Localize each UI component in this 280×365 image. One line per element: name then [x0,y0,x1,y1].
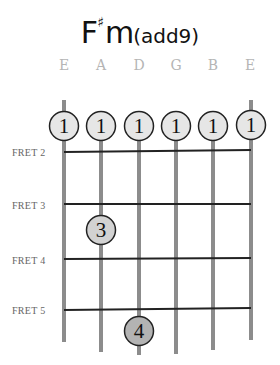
fret-line-4 [64,258,251,259]
fret-line-5 [64,308,251,310]
finger-number: 4 [134,319,145,343]
finger-number: 1 [59,114,70,138]
finger-number: 1 [171,114,182,138]
fretboard: 1 1 1 1 1 1 3 4 [0,0,280,365]
fret-line-2 [64,150,251,152]
finger-number: 3 [96,218,107,242]
finger-number: 1 [208,114,219,138]
finger-number: 1 [246,113,257,137]
finger-number: 1 [96,114,107,138]
finger-number: 1 [134,114,145,138]
